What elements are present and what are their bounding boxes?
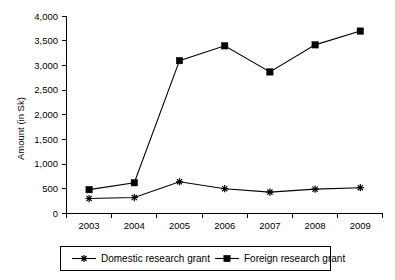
data-point-square [267,69,273,75]
y-tick-label: 3,000 [34,60,58,71]
x-tick-label: 2003 [79,220,100,231]
y-axis-tick-labels: 4,000 3,500 3,000 2,500 2,000 1,500 1,00… [34,11,58,219]
series-layer [86,28,364,202]
legend: Domestic research grant Foreign research… [61,247,346,271]
y-tick-label: 2,000 [34,109,58,120]
star-icon [81,255,88,262]
data-point-square [357,28,363,34]
y-tick-label: 4,000 [34,11,58,22]
data-point-star [176,178,183,185]
y-tick-label: 0 [53,208,58,219]
y-axis-title: Amount (in Sk) [15,97,26,160]
y-axis-ticks [62,16,67,213]
data-point-square [312,42,318,48]
y-tick-label: 1,500 [34,134,58,145]
legend-label-foreign: Foreign research grant [244,253,345,264]
data-point-square [131,180,137,186]
x-tick-label: 2005 [169,220,190,231]
series-line [89,31,360,190]
x-tick-label: 2009 [350,220,371,231]
square-icon [224,255,230,261]
data-point-star [86,195,93,202]
y-tick-label: 500 [42,183,58,194]
x-tick-label: 2006 [214,220,235,231]
x-tick-label: 2008 [305,220,326,231]
data-point-star [221,185,228,192]
x-tick-label: 2004 [124,220,145,231]
y-tick-label: 2,500 [34,84,58,95]
x-tick-label: 2007 [259,220,280,231]
x-axis-tick-labels: 2003 2004 2005 2006 2007 2008 2009 [79,220,371,231]
y-tick-label: 3,500 [34,35,58,46]
data-point-star [357,184,364,191]
line-chart: Amount (in Sk) 4,000 3,500 3,000 2,500 2… [0,0,395,280]
data-point-star [312,186,319,193]
x-axis-ticks [67,214,383,219]
data-point-square [86,186,92,192]
y-tick-label: 1,000 [34,158,58,169]
data-point-star [266,189,273,196]
series-square [86,28,364,193]
chart-container: Amount (in Sk) 4,000 3,500 3,000 2,500 2… [0,0,395,280]
data-point-square [176,57,182,63]
data-point-square [222,43,228,49]
legend-label-domestic: Domestic research grant [101,253,210,264]
series-star [86,178,364,202]
data-point-star [131,194,138,201]
